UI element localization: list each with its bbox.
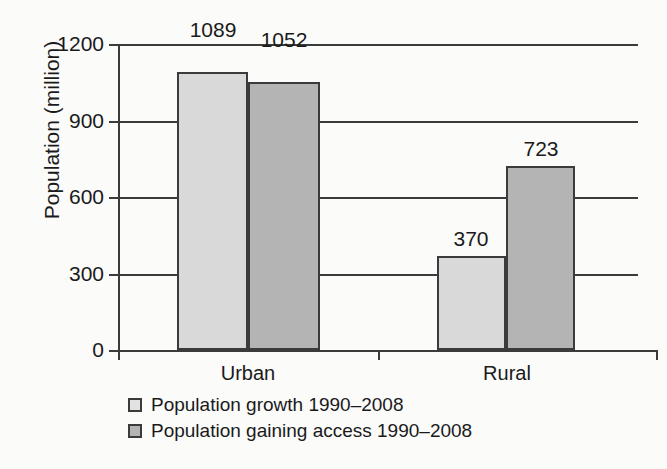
y-tick-mark-300	[109, 274, 118, 276]
x-tick-mark-end	[656, 350, 658, 360]
legend-label-growth: Population growth 1990–2008	[151, 394, 403, 416]
legend-swatch-icon-access	[128, 424, 142, 438]
y-tick-mark-900	[109, 121, 118, 123]
plot-area: 1089 1052 370 723 Urban Rural	[118, 44, 638, 350]
x-category-label-urban: Urban	[221, 362, 275, 385]
y-tick-label-1200: 1200	[57, 32, 104, 56]
x-axis-line	[118, 350, 658, 352]
chart-figure: 1200 900 600 300 0 Population (million)	[0, 0, 667, 469]
legend-label-access: Population gaining access 1990–2008	[151, 420, 472, 442]
y-tick-label-0: 0	[92, 338, 104, 362]
gridline-1200	[118, 44, 638, 46]
bar-value-urban-growth: 1089	[190, 18, 237, 42]
x-category-label-rural: Rural	[483, 362, 531, 385]
bar-urban-access	[248, 82, 320, 350]
y-tick-mark-1200	[109, 44, 118, 46]
bar-value-rural-access: 723	[523, 137, 558, 161]
y-tick-label-600: 600	[69, 185, 104, 209]
y-tick-label-900: 900	[69, 109, 104, 133]
chart-legend: Population growth 1990–2008 Population g…	[128, 392, 472, 444]
y-axis-line	[118, 44, 120, 350]
bar-value-rural-growth: 370	[453, 227, 488, 251]
y-axis-title: Population (million)	[40, 0, 64, 280]
bar-value-urban-access: 1052	[261, 28, 308, 52]
bar-rural-access	[506, 166, 575, 350]
legend-item-access: Population gaining access 1990–2008	[128, 418, 472, 444]
bar-urban-growth	[177, 72, 248, 350]
y-tick-label-300: 300	[69, 262, 104, 286]
x-tick-mark-separator	[378, 350, 380, 360]
legend-swatch-icon-growth	[128, 398, 142, 412]
y-tick-mark-0	[109, 350, 118, 352]
y-tick-mark-600	[109, 197, 118, 199]
legend-item-growth: Population growth 1990–2008	[128, 392, 472, 418]
x-tick-mark-start	[118, 350, 120, 360]
bar-rural-growth	[437, 256, 506, 350]
